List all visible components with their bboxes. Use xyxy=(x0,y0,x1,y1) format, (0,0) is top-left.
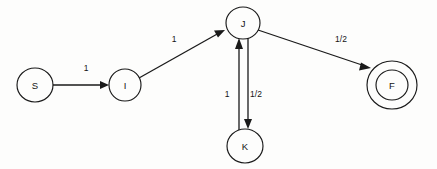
node-k[interactable]: K xyxy=(227,129,263,163)
node-j[interactable]: J xyxy=(226,7,260,39)
node-f-label: F xyxy=(389,80,395,91)
edge-line-j-f xyxy=(258,30,365,66)
state-diagram: 1 1 1/2 1/2 1 S xyxy=(0,0,437,169)
node-i-label: I xyxy=(124,80,127,91)
edge-j-to-k: 1/2 xyxy=(244,38,262,129)
arrowhead-i-j xyxy=(214,30,225,38)
arrowhead-s-i xyxy=(100,81,109,89)
edge-line-i-j xyxy=(139,33,219,78)
edge-label-s-i: 1 xyxy=(84,63,89,73)
arrowhead-k-j xyxy=(235,38,243,49)
edge-label-j-f: 1/2 xyxy=(335,34,347,44)
diagram-canvas: 1 1 1/2 1/2 1 S xyxy=(0,0,437,169)
edge-label-k-j: 1 xyxy=(225,89,230,99)
arrowhead-j-f xyxy=(359,63,371,71)
node-s-label: S xyxy=(32,80,38,91)
edge-s-to-i: 1 xyxy=(52,63,109,89)
node-f[interactable]: F xyxy=(367,61,417,109)
node-s[interactable]: S xyxy=(17,68,53,102)
node-i[interactable]: I xyxy=(109,69,141,101)
edge-label-i-j: 1 xyxy=(172,34,177,44)
arrowhead-j-k xyxy=(244,119,252,129)
edge-label-j-k: 1/2 xyxy=(250,89,262,99)
edge-k-to-j: 1 xyxy=(225,38,243,131)
edge-j-to-f: 1/2 xyxy=(258,30,371,71)
edge-i-to-j: 1 xyxy=(139,30,225,78)
node-k-label: K xyxy=(242,141,249,152)
node-j-label: J xyxy=(241,18,246,29)
